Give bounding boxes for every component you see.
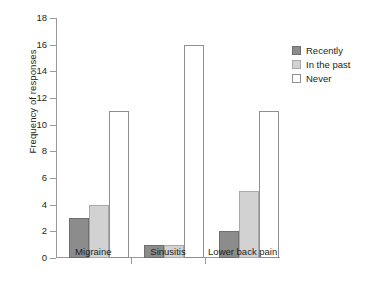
bar-group (219, 18, 279, 258)
y-tick-mark (50, 45, 56, 46)
y-tick-label: 4 (42, 198, 47, 211)
bar-group (144, 18, 204, 258)
x-category-label: Sinusitis (131, 246, 206, 257)
legend-label: Recently (306, 45, 343, 56)
bar-chart-figure: Frequency of responses 024681012141618 M… (0, 0, 381, 293)
y-tick-label: 2 (42, 224, 47, 237)
legend-item[interactable]: Recently (292, 44, 350, 56)
y-tick-label: 12 (36, 91, 47, 104)
bar-group (69, 18, 129, 258)
legend-item[interactable]: In the past (292, 58, 350, 70)
y-tick-mark (50, 258, 56, 259)
bar (109, 111, 129, 258)
y-tick-label: 8 (42, 144, 47, 157)
legend-label: In the past (306, 59, 350, 70)
bar (259, 111, 279, 258)
x-tick-mark (205, 258, 206, 264)
y-tick-mark (50, 18, 56, 19)
y-tick-mark (50, 98, 56, 99)
y-tick-label: 10 (36, 118, 47, 131)
legend-swatch-icon (292, 46, 301, 55)
legend-label: Never (306, 73, 331, 84)
y-tick-mark (50, 71, 56, 72)
legend-swatch-icon (292, 74, 301, 83)
legend-item[interactable]: Never (292, 72, 350, 84)
x-category-label: Migraine (56, 246, 131, 257)
y-tick-label: 18 (36, 11, 47, 24)
chart-legend: RecentlyIn the pastNever (292, 44, 350, 86)
legend-swatch-icon (292, 60, 301, 69)
y-tick-mark (50, 125, 56, 126)
plot-area: 024681012141618 (56, 18, 280, 258)
y-tick-label: 16 (36, 38, 47, 51)
bar (184, 45, 204, 258)
x-category-label: Lower back pain (205, 246, 280, 257)
y-tick-mark (50, 151, 56, 152)
y-tick-mark (50, 205, 56, 206)
y-tick-mark (50, 231, 56, 232)
x-tick-mark (131, 258, 132, 264)
y-axis-line (56, 18, 57, 258)
y-tick-label: 14 (36, 64, 47, 77)
y-tick-label: 6 (42, 171, 47, 184)
y-tick-label: 0 (42, 251, 47, 264)
y-tick-mark (50, 178, 56, 179)
